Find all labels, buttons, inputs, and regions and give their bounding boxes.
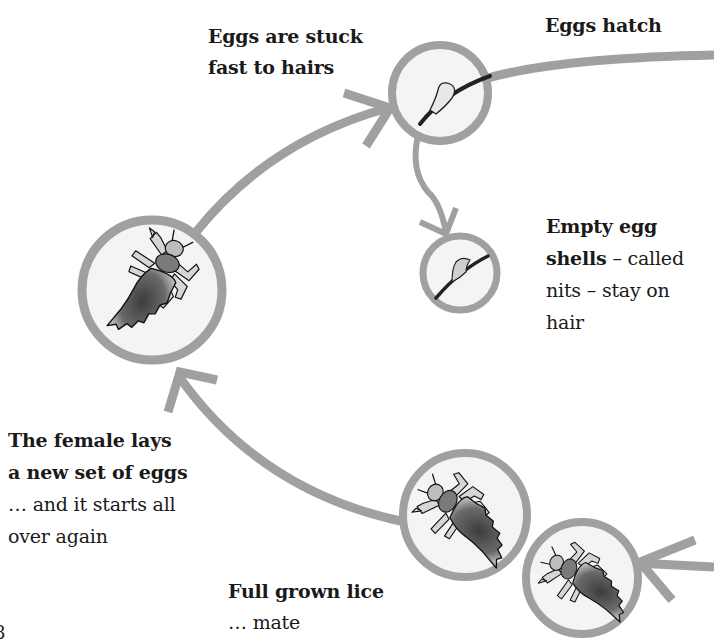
arrow-to-female	[178, 375, 405, 522]
label-line: fast to hairs	[208, 52, 363, 83]
page-number: 8	[0, 622, 5, 639]
mating-lice-icon	[402, 453, 640, 634]
label-line: over again	[8, 520, 187, 552]
label-female-lays: The female lays a new set of eggs … and …	[8, 424, 187, 552]
label-rest-part: – called	[607, 247, 684, 269]
label-eggs-stuck: Eggs are stuck fast to hairs	[208, 21, 363, 83]
label-line: a new set of eggs	[8, 456, 187, 488]
label-line: Empty egg	[546, 210, 684, 242]
label-line: shells – called	[546, 242, 684, 274]
arrow-to-eggs-stuck	[196, 108, 388, 232]
arrow-eggs-hatch	[488, 55, 714, 78]
label-line: Eggs hatch	[545, 10, 662, 41]
label-eggs-hatch: Eggs hatch	[545, 10, 662, 41]
label-full-grown: Full grown lice … mate	[228, 576, 384, 638]
label-line: The female lays	[8, 424, 187, 456]
label-empty-shells: Empty egg shells – called nits – stay on…	[546, 210, 684, 338]
label-line: nits – stay on	[546, 274, 684, 306]
label-line: hair	[546, 306, 684, 338]
adult-louse-icon	[82, 219, 222, 360]
label-bold-part: shells	[546, 247, 607, 269]
label-line: … mate	[228, 607, 384, 638]
label-line: Full grown lice	[228, 576, 384, 607]
label-line: … and it starts all	[8, 488, 187, 520]
arrow-to-empty-shell	[416, 136, 446, 232]
label-line: Eggs are stuck	[208, 21, 363, 52]
empty-egg-shell-icon	[423, 236, 497, 310]
egg-on-hair-icon	[392, 45, 490, 141]
